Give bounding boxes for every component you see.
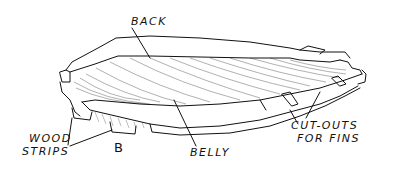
label-wood-strips-1: WOOD	[29, 133, 72, 145]
label-cutouts-2: FOR FINS	[297, 133, 360, 145]
label-back: BACK	[131, 16, 167, 28]
diagram-figure: BACK BELLY WOOD STRIPS CUT-OUTS FOR FINS…	[0, 0, 403, 169]
label-belly: BELLY	[190, 147, 230, 159]
label-wood-strips-2: STRIPS	[22, 146, 69, 158]
figure-letter: B	[114, 142, 123, 154]
label-cutouts-1: CUT-OUTS	[291, 120, 358, 132]
